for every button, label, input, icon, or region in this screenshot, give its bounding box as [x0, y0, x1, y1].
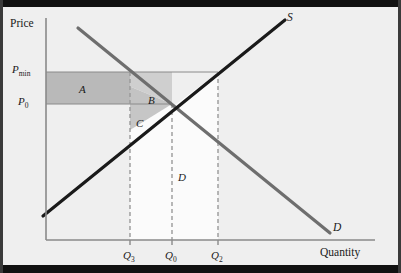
supply-demand-figure: Price Quantity Pmin P0 Q3 Q0 Q2 S D A B …: [0, 0, 401, 273]
y-tick-label-p-zero: P0: [18, 96, 28, 110]
x-tick-label-q3: Q3: [123, 250, 135, 264]
region-b-label: B: [148, 95, 155, 106]
x-tick-label-q0: Q0: [165, 250, 177, 264]
demand-curve-label: D: [333, 222, 341, 234]
x-tick-label-q2: Q2: [211, 250, 223, 264]
x-axis-title: Quantity: [320, 247, 360, 259]
y-axis-title: Price: [10, 18, 34, 30]
region-c-label: C: [136, 118, 143, 129]
region-d-label: D: [178, 172, 186, 183]
supply-curve-label: S: [287, 12, 293, 24]
region-a-label: A: [79, 84, 86, 95]
y-tick-label-p-min: Pmin: [12, 64, 30, 78]
region-a-shape: [46, 72, 130, 104]
